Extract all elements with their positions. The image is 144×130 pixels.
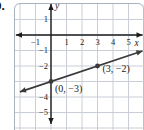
y-axis-label: y xyxy=(55,1,59,11)
y-tick-label: 1 xyxy=(28,15,48,24)
x-tick-label: 3 xyxy=(90,38,106,47)
y-tick-label: −1 xyxy=(28,46,48,55)
x-tick-label: 5 xyxy=(121,38,137,47)
x-axis-left-arrow xyxy=(16,32,22,37)
y-axis-bottom-arrow xyxy=(48,118,53,124)
y-tick-label: −2 xyxy=(28,62,48,71)
y-tick-label: −5 xyxy=(28,108,48,117)
data-point xyxy=(95,64,100,69)
figure: 9. x y −1123451−1−2−4−5(0, −3)(3, −2) xyxy=(0,0,144,130)
data-point xyxy=(49,79,54,84)
x-tick-label: 2 xyxy=(74,38,90,47)
y-tick-label: −4 xyxy=(28,93,48,102)
y-axis-top-arrow xyxy=(48,4,53,10)
point-label: (3, −2) xyxy=(103,63,130,74)
x-tick-label: 4 xyxy=(105,38,121,47)
plotted-line-right-arrow xyxy=(136,50,143,55)
x-tick-label: 1 xyxy=(59,38,75,47)
point-label: (0, −3) xyxy=(55,83,82,94)
plotted-line-left-arrow xyxy=(20,87,27,92)
